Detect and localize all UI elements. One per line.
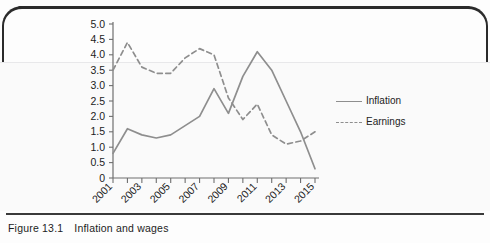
y-axis-tick-label: 4.5 [90,33,105,45]
y-axis-tick-label: 1.0 [90,141,105,153]
y-axis-tick-label: 2.0 [90,110,105,122]
y-axis-tick-label: 0.5 [90,156,105,168]
x-axis-tick-labels: 20012003200520072009201120132015 [89,180,316,205]
x-axis-tick-marks [113,178,315,183]
legend-swatch-earnings [336,122,362,123]
x-axis-tick-label: 2013 [263,180,288,205]
x-axis-tick-label: 2005 [147,180,172,205]
y-axis-tick-label: 1.5 [90,125,105,137]
figure-caption: Figure 13.1Inflation and wages [8,222,169,234]
y-axis-tick-label: 3.0 [90,79,105,91]
line-chart: 00.51.01.52.02.53.03.54.04.55.0 20012003… [0,0,490,212]
x-axis-tick-label: 2009 [205,180,230,205]
legend-label-earnings: Earnings [366,116,405,127]
figure-caption-number: Figure 13.1 [8,222,63,234]
y-axis-tick-label: 4.0 [90,48,105,60]
y-axis-tick-labels: 00.51.01.52.02.53.03.54.04.55.0 [90,18,105,184]
x-axis-tick-label: 2011 [234,180,259,205]
x-axis-tick-label: 2015 [291,180,316,205]
series-line-inflation [113,52,315,169]
caption-divider [6,213,484,215]
legend-label-inflation: Inflation [366,95,401,106]
y-axis-tick-label: 3.5 [90,64,105,76]
y-axis-tick-label: 2.5 [90,95,105,107]
book-page: 00.51.01.52.02.53.03.54.04.55.0 20012003… [0,0,490,243]
x-axis-tick-label: 2007 [176,180,201,205]
figure-caption-text: Inflation and wages [74,222,168,234]
legend-swatch-inflation [336,101,362,102]
x-axis-tick-label: 2001 [89,180,114,205]
x-axis-tick-label: 2003 [118,180,143,205]
y-axis-tick-label: 5.0 [90,18,105,30]
series-line-earnings [113,42,315,144]
